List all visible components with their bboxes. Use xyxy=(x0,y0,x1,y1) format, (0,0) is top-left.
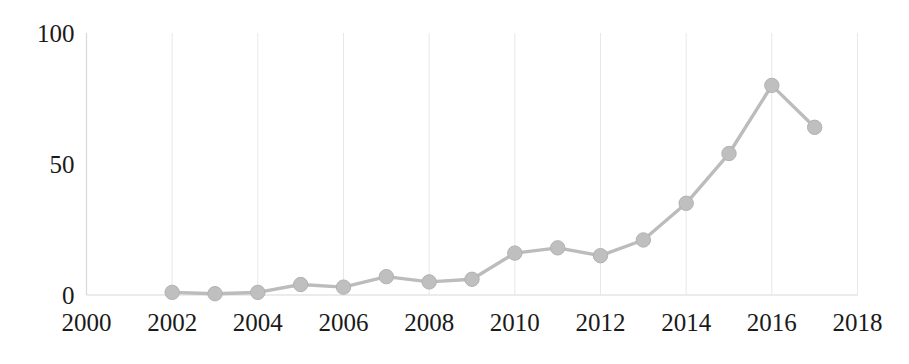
data-point-marker xyxy=(208,286,222,300)
data-point-marker xyxy=(765,78,779,92)
x-tick-label: 2008 xyxy=(404,309,454,336)
data-point-marker xyxy=(722,146,736,160)
data-point-marker xyxy=(251,285,265,299)
x-tick-label: 2002 xyxy=(147,309,197,336)
data-point-marker xyxy=(165,285,179,299)
data-point-marker xyxy=(336,280,350,294)
x-tick-label: 2004 xyxy=(233,309,284,336)
x-tick-label: 2014 xyxy=(661,309,712,336)
x-tick-label: 2010 xyxy=(490,309,540,336)
data-point-marker xyxy=(550,241,564,255)
data-point-marker xyxy=(807,120,821,134)
y-tick-label: 0 xyxy=(62,282,75,309)
data-point-marker xyxy=(465,272,479,286)
y-tick-label: 50 xyxy=(50,151,75,178)
data-point-marker xyxy=(508,246,522,260)
x-tick-label: 2006 xyxy=(319,309,369,336)
data-point-marker xyxy=(379,269,393,283)
data-point-marker xyxy=(422,275,436,289)
data-point-marker xyxy=(293,277,307,291)
x-tick-label: 2000 xyxy=(62,309,112,336)
x-tick-label: 2016 xyxy=(747,309,797,336)
y-tick-label: 100 xyxy=(37,20,75,47)
data-point-marker xyxy=(636,233,650,247)
chart-canvas: 050100 200020022004200620082010201220142… xyxy=(0,0,909,364)
x-tick-label: 2012 xyxy=(576,309,626,336)
line-chart: 050100 200020022004200620082010201220142… xyxy=(0,0,909,364)
data-point-marker xyxy=(679,196,693,210)
data-point-marker xyxy=(593,249,607,263)
x-tick-label: 2018 xyxy=(833,309,883,336)
